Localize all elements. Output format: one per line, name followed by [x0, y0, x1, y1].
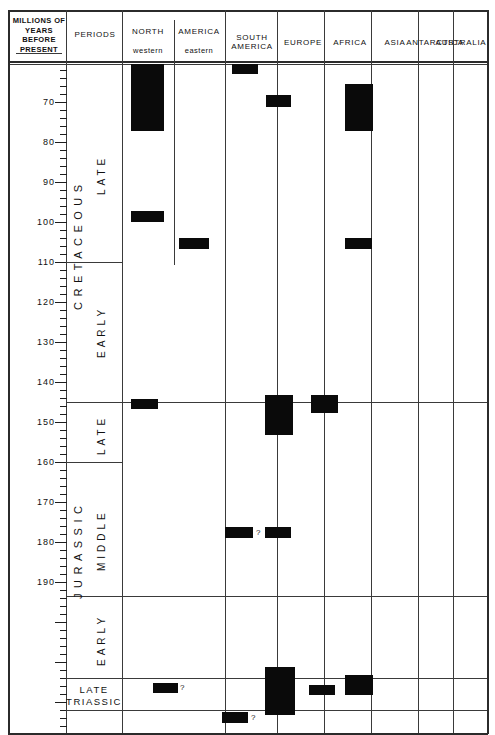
south-america-header-line2: AMERICA [226, 42, 278, 52]
bar-na-east-early-cretaceous [179, 238, 209, 249]
axis-label-130: 130 [15, 337, 55, 347]
frame-right-border [487, 10, 489, 734]
bar-na-west-late-jurassic [131, 399, 158, 409]
north-america-header-north: NORTH [123, 27, 173, 37]
axis-label-190: 190 [15, 577, 55, 587]
north-america-header-america: AMERICA [173, 27, 225, 37]
frame-left-border [8, 10, 10, 734]
col-sep-nawest-naeast [174, 20, 175, 265]
epoch-label-middle-jurassic: MIDDLE [96, 490, 114, 590]
axis-label-80: 80 [15, 137, 55, 147]
axis-label-120: 120 [15, 297, 55, 307]
bar-europe-middle-jurassic [265, 527, 291, 538]
frame-top-border [8, 10, 488, 12]
epoch-divider-middle-early-jurassic [66, 596, 487, 597]
bar-south-america-middle-jurassic [225, 527, 253, 538]
periods-header: PERIODS [70, 30, 120, 40]
epoch-label-late-cretaceous: LATE [96, 95, 114, 255]
bar-africa-late-jurassic [311, 395, 338, 413]
bar-asia-late-cretaceous [345, 84, 373, 131]
epoch-label-early-jurassic: EARLY [96, 605, 114, 675]
col-sep-europe-africa [324, 10, 325, 733]
query-marker-na-east: ? [180, 684, 184, 692]
epoch-label-late-jurassic: LATE [96, 410, 114, 460]
period-label-late-triassic-line2: TRIASSIC [64, 696, 124, 708]
axis-label-140: 140 [15, 377, 55, 387]
query-marker-south-america-triassic: ? [251, 714, 255, 722]
axis-label-110: 110 [15, 257, 55, 267]
axis-units-header: MILLIONS OF YEARS BEFORE PRESENT [8, 16, 70, 54]
north-america-western-subheader: western [123, 46, 173, 55]
australia-header: AUSTRALIA [435, 38, 487, 48]
col-sep-antarctica-australia [453, 10, 454, 733]
axis-label-160: 160 [15, 457, 55, 467]
bar-europe-early-jurassic-triassic [265, 667, 295, 715]
europe-header: EUROPE [279, 38, 327, 48]
bar-europe-late-cretaceous [266, 95, 291, 107]
axis-label-180: 180 [15, 537, 55, 547]
axis-label-100: 100 [15, 217, 55, 227]
period-label-jurassic: JURASSIC [72, 430, 90, 670]
period-label-cretaceous: CRETACEOUS [72, 95, 90, 395]
axis-label-150: 150 [15, 417, 55, 427]
col-sep-naeast-southamerica [225, 10, 226, 733]
bar-africa-late-triassic [309, 685, 335, 695]
bar-south-america-late-triassic [222, 712, 248, 723]
epoch-label-early-cretaceous: EARLY [96, 272, 114, 392]
axis-label-170: 170 [15, 497, 55, 507]
col-sep-southamerica-europe [277, 10, 278, 733]
units-underline [16, 53, 62, 54]
header-sep-units-periods [66, 10, 67, 61]
bar-na-west-late-cretaceous [131, 64, 164, 131]
axis-label-70: 70 [15, 97, 55, 107]
col-sep-periods-nawest [122, 10, 123, 733]
bar-south-america-late-cretaceous [232, 64, 258, 74]
chart-page: MILLIONS OF YEARS BEFORE PRESENT PERIODS… [0, 0, 495, 735]
bar-na-west-mid-cretaceous [131, 211, 164, 222]
axis-label-90: 90 [15, 177, 55, 187]
header-bottom-border [8, 61, 488, 63]
bar-asia-early-jurassic [345, 675, 373, 695]
bar-asia-early-cretaceous [345, 238, 372, 249]
north-america-eastern-subheader: eastern [173, 46, 225, 55]
bar-europe-late-jurassic [265, 395, 293, 435]
period-label-late-triassic-line1: LATE [66, 684, 122, 696]
query-marker-south-america-jurassic: ? [256, 529, 260, 537]
bar-na-east-late-triassic [153, 683, 178, 693]
africa-header: AFRICA [328, 38, 372, 48]
col-sep-asia-antarctica [418, 10, 419, 733]
